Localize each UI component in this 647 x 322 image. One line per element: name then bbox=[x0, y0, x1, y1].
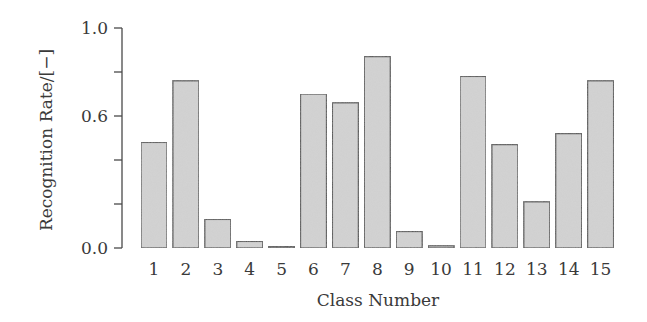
bar-class-15 bbox=[588, 81, 614, 248]
bar-class-10 bbox=[428, 246, 454, 248]
bar-class-6 bbox=[301, 94, 327, 248]
bar-class-2 bbox=[173, 81, 199, 248]
x-tick-label: 15 bbox=[590, 259, 612, 279]
x-tick-label: 3 bbox=[212, 259, 223, 279]
y-tick-label: 0.6 bbox=[81, 106, 108, 126]
bar-class-12 bbox=[492, 145, 518, 248]
y-axis-label: Recognition Rate/[−] bbox=[36, 49, 56, 231]
x-tick-label: 11 bbox=[462, 259, 484, 279]
x-tick-label: 6 bbox=[308, 259, 319, 279]
x-tick-label: 4 bbox=[244, 259, 255, 279]
x-tick-label: 10 bbox=[430, 259, 452, 279]
x-tick-label: 7 bbox=[340, 259, 351, 279]
chart-canvas: 0.00.61.0 123456789101112131415 Recognit… bbox=[0, 0, 647, 322]
x-tick-label: 14 bbox=[558, 259, 580, 279]
x-tick-labels: 123456789101112131415 bbox=[149, 259, 612, 279]
x-tick-label: 12 bbox=[494, 259, 516, 279]
x-tick-label: 5 bbox=[276, 259, 287, 279]
bar-class-13 bbox=[524, 202, 550, 248]
bar-class-14 bbox=[556, 134, 582, 248]
bar-class-8 bbox=[364, 57, 390, 248]
y-tick-label: 1.0 bbox=[81, 18, 108, 38]
bar-class-7 bbox=[332, 103, 358, 248]
bar-class-9 bbox=[396, 232, 422, 249]
y-tick-label: 0.0 bbox=[81, 238, 108, 258]
x-tick-label: 1 bbox=[149, 259, 160, 279]
bar-class-1 bbox=[141, 142, 167, 248]
x-tick-label: 9 bbox=[404, 259, 415, 279]
bar-class-4 bbox=[237, 241, 263, 248]
bar-class-5 bbox=[269, 247, 295, 249]
bar-class-3 bbox=[205, 219, 231, 248]
bar-class-11 bbox=[460, 76, 486, 248]
x-tick-label: 8 bbox=[372, 259, 383, 279]
x-axis-label: Class Number bbox=[317, 290, 440, 310]
y-axis: 0.00.61.0 bbox=[81, 18, 122, 258]
bars bbox=[141, 57, 614, 248]
x-tick-label: 13 bbox=[526, 259, 548, 279]
x-tick-label: 2 bbox=[180, 259, 191, 279]
